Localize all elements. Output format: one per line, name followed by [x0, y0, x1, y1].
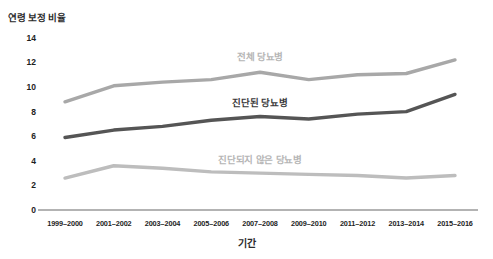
series-label: 진단되지 않은 당뇨병	[218, 152, 302, 166]
series-line	[65, 166, 455, 178]
chart-container: 연령 보정 비율 기간 02468101214 1999–20002001–20…	[0, 0, 493, 259]
series-label: 전체 당뇨병	[237, 49, 283, 63]
series-label: 진단된 당뇨병	[232, 95, 287, 109]
plot-area	[0, 0, 493, 259]
